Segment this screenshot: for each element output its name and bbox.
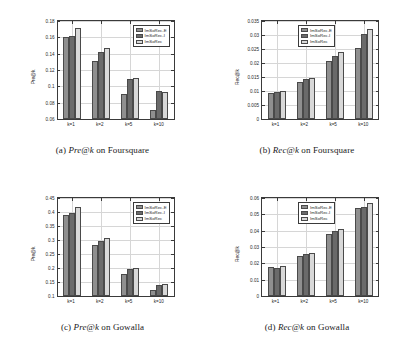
legend-label: ImSoRec-I	[145, 33, 165, 38]
caption-prefix: (c)	[61, 322, 74, 332]
y-tick-label: 0.1	[48, 294, 57, 299]
x-tick-label: k=10	[154, 299, 164, 309]
x-tick-label: k=2	[96, 122, 104, 132]
legend-item: ImSoRec-E	[136, 205, 167, 210]
legend-item: ImSoRec-E	[301, 28, 332, 33]
y-tick-label: 0.015	[248, 75, 263, 80]
chart-panel-c: Pre@k0.10.150.20.250.30.350.40.45ImSoRec…	[0, 177, 205, 354]
x-tick-label: k=2	[301, 299, 309, 309]
legend-label: ImSoRec-I	[310, 33, 330, 38]
y-axis-label-a: Pre@k	[30, 70, 35, 85]
y-tick-label: 0.03	[250, 33, 262, 38]
bar	[133, 268, 139, 296]
legend-a: ImSoRec-EImSoRec-IImSoRec	[133, 25, 170, 47]
legend-swatch	[136, 205, 143, 209]
bar	[75, 28, 81, 119]
legend-swatch	[301, 34, 308, 38]
x-tick-label: k=10	[358, 122, 368, 132]
y-tick-label: 0.1	[48, 84, 57, 89]
caption-c: (c) Pre@k on Gowalla	[61, 322, 144, 332]
bar-group	[268, 21, 286, 119]
caption-a: (a) Pre@k on Foursquare	[56, 145, 149, 155]
legend-label: ImSoRec	[310, 216, 328, 221]
x-tick-label: k=1	[272, 122, 280, 132]
y-tick-mark-right	[376, 119, 379, 120]
legend-item: ImSoRec-I	[301, 33, 332, 38]
caption-suffix: on Foursquare	[94, 145, 149, 155]
legend-label: ImSoRec-E	[310, 28, 332, 33]
legend-item: ImSoRec-I	[136, 210, 167, 215]
x-tick-label: k=2	[96, 299, 104, 309]
legend-swatch	[301, 205, 308, 209]
x-tick-label: k=1	[67, 122, 75, 132]
y-tick-label: 0.15	[46, 280, 58, 285]
x-axis-labels-b: k=1k=2k=5k=10	[261, 122, 379, 132]
x-tick-label: k=10	[154, 122, 164, 132]
bar	[367, 203, 373, 296]
bar	[162, 92, 168, 119]
y-tick-mark	[262, 296, 265, 297]
y-tick-label: 0.45	[46, 196, 58, 201]
chart-panel-b: Rec@k00.0050.010.0150.020.0250.030.035Im…	[205, 0, 409, 177]
caption-metric: Pre@k	[68, 145, 93, 155]
x-tick-label: k=1	[272, 299, 280, 309]
axes-a: 0.060.080.10.120.140.160.18ImSoRec-EImSo…	[57, 20, 175, 120]
legend-swatch	[301, 28, 308, 32]
x-axis-labels-a: k=1k=2k=5k=10	[57, 122, 175, 132]
bar	[338, 229, 344, 296]
caption-prefix: (b)	[260, 145, 273, 155]
legend-item: ImSoRec	[301, 39, 332, 44]
y-tick-mark	[262, 119, 265, 120]
y-tick-label: 0.06	[46, 117, 58, 122]
bar	[338, 52, 344, 119]
y-tick-label: 0.03	[250, 245, 262, 250]
y-axis-label-d: Rec@k	[235, 246, 240, 262]
legend-b: ImSoRec-EImSoRec-IImSoRec	[298, 25, 335, 47]
x-tick-label: k=1	[67, 299, 75, 309]
legend-swatch	[136, 34, 143, 38]
figure-grid: Pre@k0.060.080.10.120.140.160.18ImSoRec-…	[0, 0, 409, 354]
bar-group	[355, 21, 373, 119]
bar	[75, 207, 81, 296]
legend-item: ImSoRec	[136, 216, 167, 221]
plot-area-b: Rec@k00.0050.010.0150.020.0250.030.035Im…	[228, 16, 386, 138]
legend-swatch	[136, 40, 143, 44]
legend-label: ImSoRec-E	[145, 205, 167, 210]
plot-area-a: Pre@k0.060.080.10.120.140.160.18ImSoRec-…	[24, 16, 182, 138]
legend-item: ImSoRec-E	[136, 28, 167, 33]
caption-metric: Pre@k	[74, 322, 99, 332]
y-tick-mark	[58, 119, 61, 120]
y-tick-label: 0.02	[250, 261, 262, 266]
x-tick-label: k=5	[329, 299, 337, 309]
legend-label: ImSoRec-I	[310, 210, 330, 215]
legend-swatch	[301, 40, 308, 44]
y-tick-mark-right	[376, 296, 379, 297]
bar	[280, 91, 286, 119]
legend-label: ImSoRec-E	[145, 28, 167, 33]
y-tick-label: 0.025	[248, 47, 263, 52]
legend-swatch	[136, 211, 143, 215]
axes-d: 00.010.020.030.040.050.06ImSoRec-EImSoRe…	[261, 197, 379, 297]
legend-swatch	[301, 217, 308, 221]
x-tick-label: k=2	[301, 122, 309, 132]
x-axis-labels-c: k=1k=2k=5k=10	[57, 299, 175, 309]
chart-panel-a: Pre@k0.060.080.10.120.140.160.18ImSoRec-…	[0, 0, 205, 177]
y-tick-label: 0.14	[46, 51, 58, 56]
legend-item: ImSoRec	[136, 39, 167, 44]
legend-swatch	[136, 28, 143, 32]
bar-group	[92, 198, 110, 296]
axes-b: 00.0050.010.0150.020.0250.030.035ImSoRec…	[261, 20, 379, 120]
legend-c: ImSoRec-EImSoRec-IImSoRec	[133, 202, 170, 224]
legend-swatch	[301, 211, 308, 215]
y-tick-mark-right	[171, 296, 174, 297]
y-tick-label: 0.035	[248, 19, 263, 24]
y-tick-label: 0.08	[46, 100, 58, 105]
y-tick-label: 0.2	[48, 266, 57, 271]
bar-group	[63, 21, 81, 119]
caption-prefix: (d)	[265, 322, 278, 332]
bar-group	[268, 198, 286, 296]
bar	[367, 29, 373, 119]
legend-label: ImSoRec-I	[145, 210, 165, 215]
y-tick-mark-right	[171, 119, 174, 120]
y-tick-label: 0.01	[250, 277, 262, 282]
